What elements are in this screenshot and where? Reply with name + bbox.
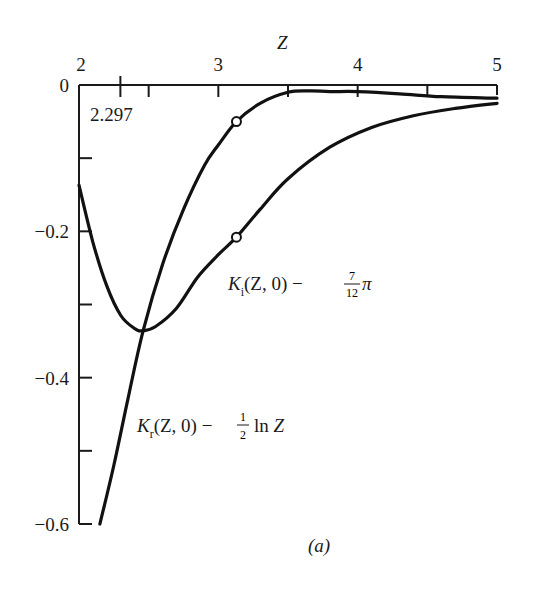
markers [232, 117, 241, 242]
chart: 23450−0.2−0.4−0.6 Z 2.297 Ki(Z, 0) − 7 1… [0, 0, 536, 601]
x-tick-label: 3 [214, 54, 224, 75]
y-tick-label: −0.6 [35, 514, 69, 535]
svg-text:12: 12 [346, 286, 358, 300]
x-tick-label: 4 [353, 54, 363, 75]
labels: 23450−0.2−0.4−0.6 [35, 54, 502, 535]
data-marker [232, 117, 241, 126]
series-label-kr: Kr(Z, 0) − 1 2 ln Z [136, 410, 285, 442]
x-axis-title: Z [277, 32, 288, 53]
curves [79, 91, 497, 524]
svg-text:Kr(Z, 0) −: Kr(Z, 0) − [136, 415, 212, 441]
svg-text:7: 7 [349, 269, 355, 283]
data-marker [232, 233, 241, 242]
panel-label: (a) [308, 535, 330, 557]
series-label-ki: Ki(Z, 0) − 7 12 π [227, 269, 372, 300]
y-tick-label: −0.2 [35, 221, 69, 242]
y-tick-label: 0 [60, 75, 70, 96]
svg-text:1: 1 [240, 410, 246, 424]
x-tick-label: 2 [76, 54, 86, 75]
svg-text:π: π [362, 273, 372, 294]
x-tick-label: 5 [492, 54, 502, 75]
svg-text:2: 2 [240, 428, 246, 442]
x-annotation-2297: 2.297 [90, 104, 133, 125]
y-tick-label: −0.4 [35, 368, 70, 389]
svg-text:Ki(Z, 0) −: Ki(Z, 0) − [227, 273, 303, 299]
axes [79, 76, 497, 524]
curve-kr [100, 91, 497, 524]
curve-ki [79, 103, 497, 331]
svg-text:ln Z: ln Z [254, 415, 285, 436]
